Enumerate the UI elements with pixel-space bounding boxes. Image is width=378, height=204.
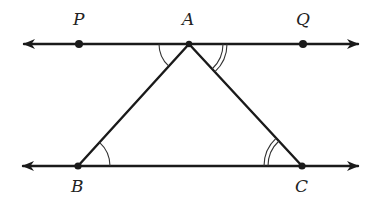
angle-arc-ACB-outer	[264, 138, 276, 166]
point-P	[75, 40, 83, 48]
point-A	[186, 41, 192, 47]
angle-arc-PAB	[159, 44, 169, 66]
angle-arc-QAC-outer	[215, 44, 227, 72]
angle-arc-ABC	[100, 142, 111, 166]
segment-AC	[189, 44, 302, 166]
parallel-lines-triangle-diagram: P A Q B C	[0, 0, 378, 204]
segment-AB	[78, 44, 189, 166]
label-C: C	[295, 176, 308, 196]
angle-arc-ACB-inner	[268, 141, 279, 166]
label-P: P	[72, 9, 85, 29]
angle-arc-QAC-inner	[212, 44, 223, 69]
point-C	[298, 162, 305, 169]
label-A: A	[180, 9, 194, 29]
label-Q: Q	[296, 9, 310, 29]
label-B: B	[70, 176, 84, 196]
point-Q	[299, 40, 307, 48]
point-B	[74, 162, 81, 169]
